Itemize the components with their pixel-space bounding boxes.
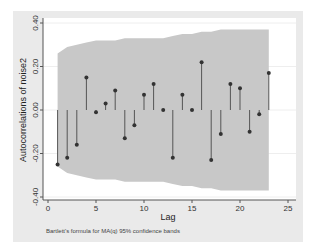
stem-marker (132, 123, 136, 127)
y-axis-title: Autocorrelations of noise2 (18, 58, 28, 162)
x-tick-label: 25 (284, 204, 293, 213)
y-tick-label: 0.20 (31, 58, 40, 74)
y-axis: -0.40-0.200.000.200.40 (31, 15, 43, 206)
y-tick-label: 0.00 (31, 102, 40, 118)
x-axis-title: Lag (160, 212, 175, 222)
confidence-band-note: Bartlett's formula for MA(q) 95% confide… (46, 228, 180, 234)
y-tick-label: -0.40 (31, 187, 40, 206)
stem-marker (257, 112, 261, 116)
x-tick-label: 10 (140, 204, 149, 213)
stem-marker (113, 88, 117, 92)
stem-marker (161, 108, 165, 112)
stem-marker (180, 93, 184, 97)
y-tick-label: -0.20 (31, 144, 40, 163)
stem-marker (152, 82, 156, 86)
x-tick-label: 5 (94, 204, 99, 213)
stem-marker (123, 136, 127, 140)
stem-marker (209, 158, 213, 162)
correlogram-chart: -0.40-0.200.000.200.40 0510152025 Autoco… (0, 0, 311, 252)
stem-marker (84, 75, 88, 79)
stem-marker (228, 82, 232, 86)
stem-marker (200, 60, 204, 64)
x-tick-label: 15 (188, 204, 197, 213)
stem-marker (238, 86, 242, 90)
stem-marker (248, 130, 252, 134)
stem-marker (219, 132, 223, 136)
stem-marker (56, 162, 60, 166)
stem-marker (190, 108, 194, 112)
stem-marker (104, 101, 108, 105)
stem-marker (75, 143, 79, 147)
y-tick-label: 0.40 (31, 15, 40, 31)
stem-marker (65, 156, 69, 160)
x-tick-label: 20 (236, 204, 245, 213)
x-tick-label: 0 (46, 204, 51, 213)
stem-marker (142, 93, 146, 97)
stem-marker (171, 156, 175, 160)
stem-marker (267, 71, 271, 75)
stem-marker (94, 110, 98, 114)
